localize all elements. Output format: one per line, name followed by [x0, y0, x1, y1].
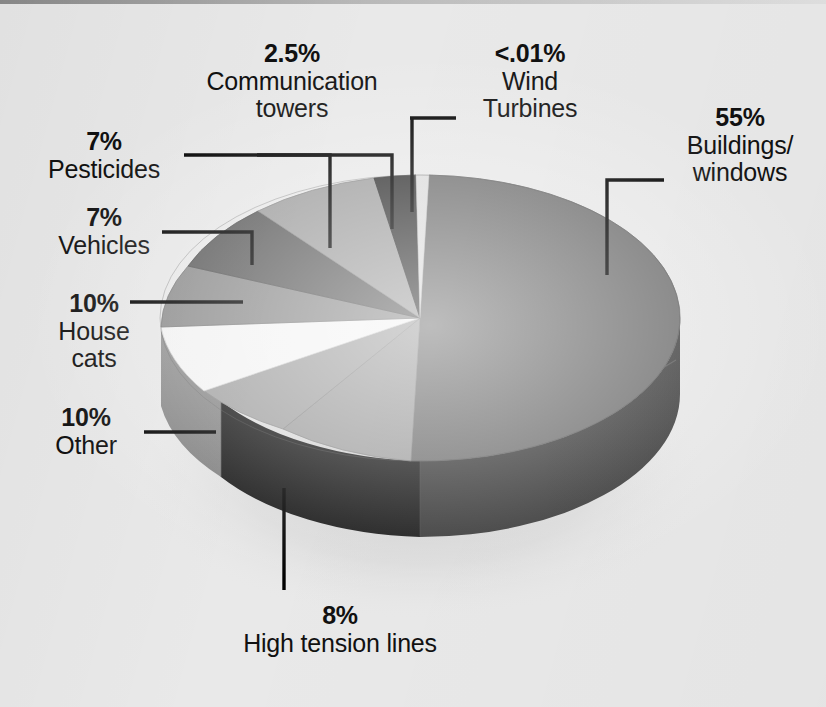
callout-vehicles: 7% Vehicles — [32, 204, 176, 259]
callout-wind-turbines: <.01% Wind Turbines — [464, 40, 596, 123]
callout-percent: 10% — [24, 404, 148, 432]
callout-label-line1: Buildings/ — [672, 132, 808, 160]
callout-other: 10% Other — [24, 404, 148, 459]
callout-label-line2: Turbines — [464, 95, 596, 123]
callout-house-cats: 10% House cats — [28, 290, 160, 373]
callout-label-line2: cats — [28, 345, 160, 373]
callout-percent: 8% — [194, 602, 486, 630]
top-crop-edge — [0, 0, 826, 4]
callout-label-line1: Communication — [196, 68, 388, 96]
callout-percent: 7% — [32, 204, 176, 232]
callout-label-line1: Pesticides — [28, 156, 180, 184]
callout-label-line1: High tension lines — [194, 630, 486, 658]
callout-buildings-windows: 55% Buildings/ windows — [672, 104, 808, 187]
callout-label-line1: Vehicles — [32, 232, 176, 260]
callout-label-line1: House — [28, 318, 160, 346]
callout-percent: 7% — [28, 128, 180, 156]
callout-label-line2: towers — [196, 95, 388, 123]
callout-percent: 10% — [28, 290, 160, 318]
callout-percent: 55% — [672, 104, 808, 132]
callout-label-line2: windows — [672, 159, 808, 187]
callout-label-line1: Wind — [464, 68, 596, 96]
callout-label-line1: Other — [24, 432, 148, 460]
callout-high-tension-lines: 8% High tension lines — [194, 602, 486, 657]
callout-percent: <.01% — [464, 40, 596, 68]
callout-communication-towers: 2.5% Communication towers — [196, 40, 388, 123]
callout-pesticides: 7% Pesticides — [28, 128, 180, 183]
pie-chart-figure: 2.5% Communication towers <.01% Wind Tur… — [0, 0, 826, 707]
callout-percent: 2.5% — [196, 40, 388, 68]
